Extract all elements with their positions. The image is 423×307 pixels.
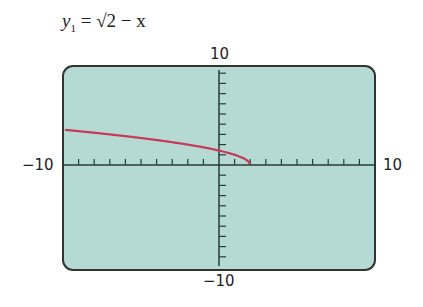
graph-screen bbox=[0, 0, 423, 307]
